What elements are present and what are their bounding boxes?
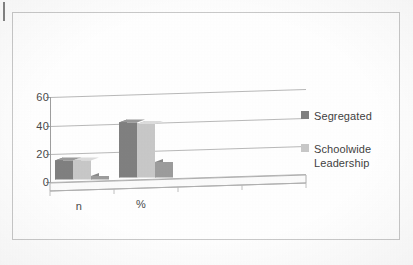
chart-frame: 60 40 20 0 n % Segregated Schoolwide Lea… xyxy=(12,12,400,240)
scan-edge-artifact xyxy=(3,2,5,21)
chart-legend: Segregated Schoolwide Leadership xyxy=(301,109,399,189)
legend-entry-schoolwide-leadership[interactable]: Schoolwide Leadership xyxy=(301,142,399,170)
legend-label-schoolwide-leadership: Schoolwide Leadership xyxy=(314,142,399,170)
x-tick-n: n xyxy=(67,201,91,212)
legend-entry-segregated[interactable]: Segregated xyxy=(301,109,399,123)
legend-label-segregated: Segregated xyxy=(314,109,372,123)
x-tick-percent: % xyxy=(129,199,153,210)
legend-swatch-icon xyxy=(301,144,309,152)
legend-swatch-icon xyxy=(301,111,309,119)
